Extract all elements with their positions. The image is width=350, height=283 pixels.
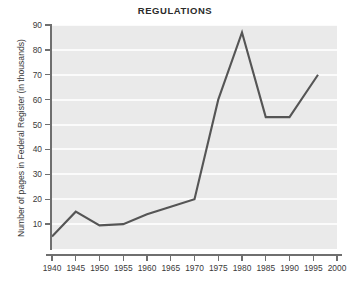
- x-axis-tick: [313, 255, 314, 261]
- y-axis-tick: [45, 149, 51, 150]
- x-axis-tick: [51, 255, 52, 261]
- data-series-line: [52, 25, 337, 249]
- y-axis-tick-label: 10: [18, 220, 42, 228]
- x-axis-tick: [146, 255, 147, 261]
- x-axis-tick: [194, 255, 195, 261]
- y-axis-tick-label: 60: [18, 96, 42, 104]
- y-axis-tick: [45, 49, 51, 50]
- y-axis-tick-label: 80: [18, 46, 42, 54]
- y-axis-tick-label: 50: [18, 121, 42, 129]
- y-axis-tick: [45, 174, 51, 175]
- y-axis-tick: [45, 24, 51, 25]
- x-axis-tick: [75, 255, 76, 261]
- plot-area-wrapper: [52, 25, 337, 249]
- regulations-line-chart: REGULATIONS Number of pages in Federal R…: [0, 0, 350, 283]
- y-axis-tick-label: 20: [18, 195, 42, 203]
- x-axis-tick: [289, 255, 290, 261]
- x-axis-tick: [99, 255, 100, 261]
- plot-area: [52, 25, 337, 249]
- x-axis-tick: [265, 255, 266, 261]
- y-axis-tick: [45, 99, 51, 100]
- x-axis-tick: [336, 255, 337, 261]
- x-axis-tick: [241, 255, 242, 261]
- x-axis-tick-label: 2000: [320, 264, 350, 273]
- x-axis-tick: [123, 255, 124, 261]
- chart-title: REGULATIONS: [0, 5, 350, 16]
- y-axis-tick-label: 30: [18, 170, 42, 178]
- y-axis-tick: [45, 223, 51, 224]
- x-axis-tick: [170, 255, 171, 261]
- y-axis-tick-label: 70: [18, 71, 42, 79]
- y-axis-tick: [45, 124, 51, 125]
- y-axis-tick: [45, 199, 51, 200]
- y-axis-tick: [45, 74, 51, 75]
- y-axis-tick-label: 40: [18, 145, 42, 153]
- x-axis-tick: [218, 255, 219, 261]
- y-axis-tick-label: 90: [18, 21, 42, 29]
